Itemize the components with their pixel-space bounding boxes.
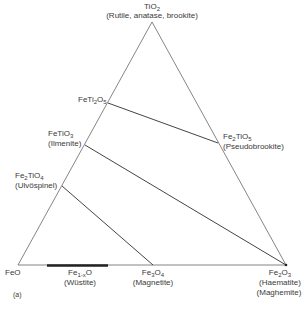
feo-label: FeO [5,268,21,278]
fe2tio4-name: (Ulvöspinel) [15,181,57,191]
panel-label: (a) [13,290,22,300]
fe2tio5-label: Fe2TiO5 [223,132,252,142]
fe2o3-name-maghemite: (Maghemite) [250,288,302,298]
tie-line-fe2tio4-fe3o4 [62,186,153,265]
tie-line-feti2o5-fe2tio5 [108,103,218,143]
wustite-name: (Wüstite) [50,278,110,288]
fe2tio5-name: (Pseudobrookite) [223,142,284,152]
fe2tio4-label: Fe2TiO4 [15,171,44,181]
wustite-label: Fe1-xO [50,268,110,278]
fetio3-name: (Ilmenite) [48,139,81,149]
fetio3-label: FeTiO3 [48,129,73,139]
fe2o3-label: Fe2O3 [255,268,302,278]
ternary-diagram [0,0,302,312]
edge-left [18,22,152,265]
fe2o3-name-haematite: (Haematite) [252,278,302,288]
tie-lines [62,103,286,265]
tio2-name: (Rutile, anatase, brookite) [82,11,222,21]
tie-line-fetio3-fe2o3 [85,145,286,265]
fe3o4-name: (Magnetite) [118,278,188,288]
fe3o4-label: Fe3O4 [123,268,183,278]
fe2o3-point [285,264,288,267]
feti2o5-label: FeTi2O5 [78,95,107,105]
